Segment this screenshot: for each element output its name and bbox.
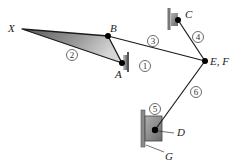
joint-d <box>152 127 158 133</box>
link-number-2: 2 <box>67 50 78 61</box>
svg-text:2: 2 <box>70 50 75 60</box>
slider-5 <box>141 110 162 147</box>
label-ef: E, F <box>209 55 229 67</box>
linkage-diagram: X B A C E, F D G 1 2 3 4 5 6 <box>0 0 244 168</box>
leader-g <box>146 145 164 152</box>
link-number-1: 1 <box>140 61 151 72</box>
label-d: D <box>176 126 185 138</box>
svg-text:1: 1 <box>143 61 148 71</box>
label-c: C <box>185 8 193 20</box>
joint-ef <box>202 58 208 64</box>
svg-text:4: 4 <box>196 32 201 42</box>
link-number-5: 5 <box>150 104 161 115</box>
link-number-4: 4 <box>193 32 204 43</box>
link-number-6: 6 <box>191 87 202 98</box>
link-number-3: 3 <box>148 36 159 47</box>
joint-c <box>175 17 181 23</box>
svg-text:5: 5 <box>153 104 158 114</box>
label-a: A <box>114 68 122 80</box>
joint-a <box>119 60 125 66</box>
label-x: X <box>7 22 16 34</box>
svg-text:3: 3 <box>151 36 156 46</box>
label-b: B <box>110 22 117 34</box>
svg-text:6: 6 <box>194 87 199 97</box>
label-g: G <box>165 150 173 162</box>
wall-g <box>141 110 145 147</box>
